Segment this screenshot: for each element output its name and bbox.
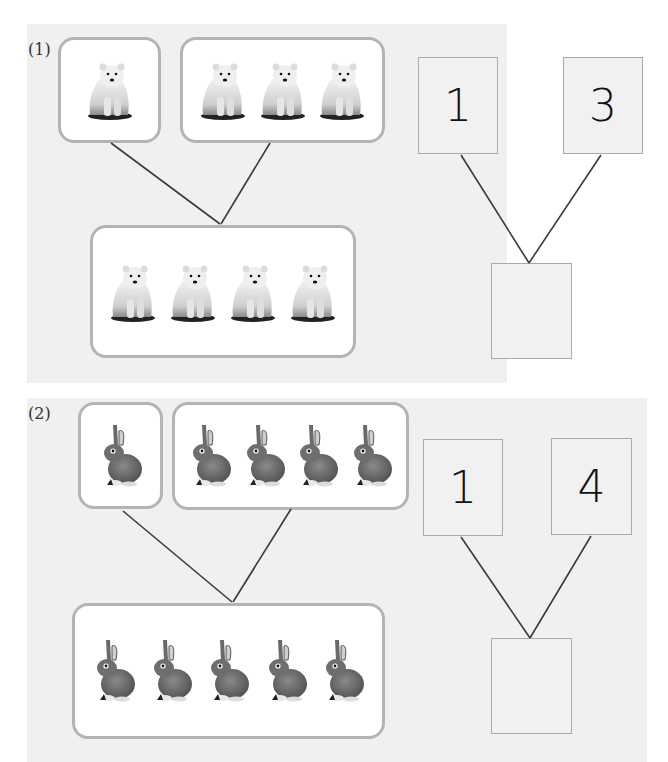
rabbit-icon [319,636,367,706]
polar-bear-icon [257,59,309,121]
problem-1-right-number-box: 3 [563,57,643,154]
rabbit-icon [204,636,252,706]
rabbit-icon [90,636,138,706]
rabbit-icon [293,421,341,491]
polar-bear-icon [84,59,136,121]
rabbit-icon [147,636,195,706]
problem-1-label: (1) [28,40,51,59]
rabbit-icon [262,636,310,706]
polar-bear-icon [227,261,279,323]
problem-2-part-b-box [172,402,409,510]
problem-1-part-a-box [58,37,161,143]
problem-1-whole-box [90,225,356,358]
problem-2-answer-box[interactable] [491,638,572,734]
problem-2-whole-box [72,603,385,739]
rabbit-icon [97,421,145,491]
problem-1-answer-box[interactable] [491,263,572,359]
polar-bear-icon [107,261,159,323]
problem-2-left-number-box: 1 [423,439,503,536]
polar-bear-icon [197,59,249,121]
rabbit-icon [240,421,288,491]
polar-bear-icon [316,59,368,121]
polar-bear-icon [167,261,219,323]
rabbit-icon [186,421,234,491]
problem-1-part-b-box [180,37,385,143]
polar-bear-icon [287,261,339,323]
problem-2-right-number-box: 4 [551,438,632,535]
problem-1-left-number-box: 1 [418,57,498,154]
problem-2-part-a-box [78,402,163,509]
problem-2-label: (2) [28,404,51,423]
rabbit-icon [347,421,395,491]
